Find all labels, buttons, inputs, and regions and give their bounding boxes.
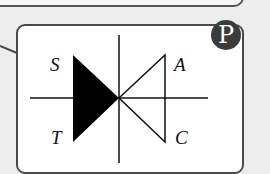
- p-badge: P: [211, 20, 241, 50]
- label-t: T: [51, 127, 63, 148]
- label-s: S: [50, 54, 60, 75]
- filled-triangle-icon: [73, 55, 119, 142]
- label-c: C: [175, 127, 188, 148]
- label-a: A: [172, 54, 186, 75]
